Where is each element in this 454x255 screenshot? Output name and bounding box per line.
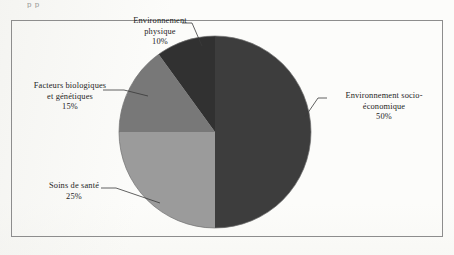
pie-label-environnement-physique: Environnement physique 10% [104,16,216,48]
pie-label-percent: 50% [322,112,446,123]
pie-slice-environnement-socio-economique[interactable] [215,36,311,228]
pie-label-line2: et génétiques [47,92,93,101]
pie-label-percent: 25% [22,192,126,203]
pie-label-line2: physique [144,27,175,36]
pie-label-soins-de-sante: Soins de santé 25% [22,181,126,202]
pie-label-line1: Environnement [133,16,187,25]
pie-label-percent: 10% [104,37,216,48]
pie-chart-graphic [0,0,454,255]
pie-label-line2: économique [363,102,405,111]
pie-slice-soins-de-sante[interactable] [119,132,215,228]
pie-label-percent: 15% [8,102,132,113]
pie-label-line1: Soins de santé [49,181,99,190]
pie-label-facteurs-biologiques-et-genetiques: Facteurs biologiques et génétiques 15% [8,81,132,113]
pie-label-line1: Facteurs biologiques [34,81,107,90]
pie-label-environnement-socio-economique: Environnement socio- économique 50% [322,91,446,123]
pie-label-line1: Environnement socio- [345,91,422,100]
